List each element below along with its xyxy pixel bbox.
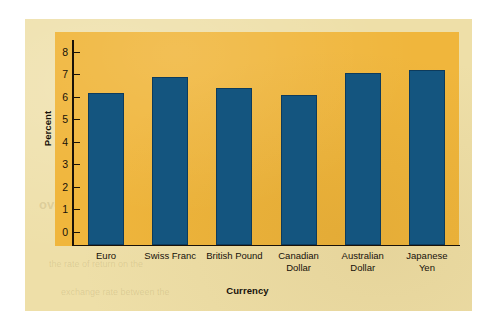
y-axis-tick-label: 0: [52, 227, 68, 238]
y-axis-tick: [74, 187, 80, 188]
x-axis-category-label-line: Swiss Franc: [138, 250, 202, 262]
y-axis-tick-label: 3: [52, 159, 68, 170]
y-axis-tick-label: 2: [52, 182, 68, 193]
y-axis-tick-label: 6: [52, 92, 68, 103]
x-axis-category-label-line: Japanese: [395, 250, 459, 262]
y-axis-tick-label-wrap: 4: [52, 137, 68, 148]
y-axis-tick-label-wrap: 0: [52, 227, 68, 238]
x-axis-category-label-line: Dollar: [267, 262, 331, 274]
y-axis-tick: [74, 232, 80, 233]
y-axis-tick: [74, 209, 80, 210]
y-axis-tick-label-wrap: 2: [52, 182, 68, 193]
x-axis-category-label: Swiss Franc: [138, 250, 202, 262]
y-axis-tick-label: 1: [52, 204, 68, 215]
x-axis-category-label-line: Canadian: [267, 250, 331, 262]
x-axis-category-label-line: British Pound: [202, 250, 266, 262]
bar: [345, 73, 381, 245]
y-axis-tick-label-wrap: 7: [52, 69, 68, 80]
y-axis-tick: [74, 74, 80, 75]
y-axis-tick-label: 7: [52, 69, 68, 80]
x-axis-category-label-line: Australian: [331, 250, 395, 262]
y-axis-tick: [74, 97, 80, 98]
y-axis-title: Percent: [42, 111, 53, 147]
y-axis-tick-label-wrap: 5: [52, 114, 68, 125]
page-root: nt of the second as of the first of ence…: [0, 0, 495, 328]
y-axis-tick: [74, 164, 80, 165]
x-axis-title: Currency: [0, 285, 495, 296]
y-axis-tick-label: 5: [52, 114, 68, 125]
x-axis-category-label: British Pound: [202, 250, 266, 262]
y-axis-tick: [74, 52, 80, 53]
bar: [152, 77, 188, 245]
x-axis-category-label: AustralianDollar: [331, 250, 395, 273]
y-axis-tick-label-wrap: 8: [52, 47, 68, 58]
bar: [216, 88, 252, 245]
x-axis-category-label: CanadianDollar: [267, 250, 331, 273]
bar: [409, 70, 445, 245]
x-axis-category-label: Euro: [74, 250, 138, 262]
y-axis-tick-label-wrap: 3: [52, 159, 68, 170]
bar: [281, 95, 317, 245]
x-axis-category-label: JapaneseYen: [395, 250, 459, 273]
x-axis-category-label-line: Dollar: [331, 262, 395, 274]
y-axis-tick-label-wrap: 1: [52, 204, 68, 215]
x-axis-category-label-line: Yen: [395, 262, 459, 274]
y-axis-tick-label: 8: [52, 47, 68, 58]
x-axis-line: [72, 245, 460, 247]
y-axis-tick-label-wrap: 6: [52, 92, 68, 103]
y-axis-tick-label: 4: [52, 137, 68, 148]
bar-chart: 012345678 Percent EuroSwiss FrancBritish…: [0, 0, 495, 328]
x-axis-category-label-line: Euro: [74, 250, 138, 262]
bar: [88, 93, 124, 245]
y-axis-tick: [74, 142, 80, 143]
y-axis-tick: [74, 119, 80, 120]
